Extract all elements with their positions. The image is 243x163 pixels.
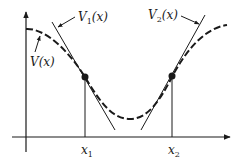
x1-label: x1 — [81, 143, 93, 159]
potential-curve — [26, 25, 227, 119]
v2-label: V2(x) — [148, 8, 178, 24]
tangent-point-2 — [169, 73, 176, 80]
v-pointer-arrow — [35, 36, 40, 52]
v1-pointer-arrow — [58, 17, 75, 27]
tangent-line-2 — [141, 15, 205, 130]
potential-diagram: V1(x) V2(x) V(x) x1 x2 — [0, 0, 243, 163]
x2-label: x2 — [168, 143, 180, 159]
v1-label: V1(x) — [78, 10, 108, 26]
tangent-point-1 — [82, 74, 89, 81]
v-label: V(x) — [30, 55, 55, 69]
v2-pointer-arrow — [181, 16, 199, 24]
